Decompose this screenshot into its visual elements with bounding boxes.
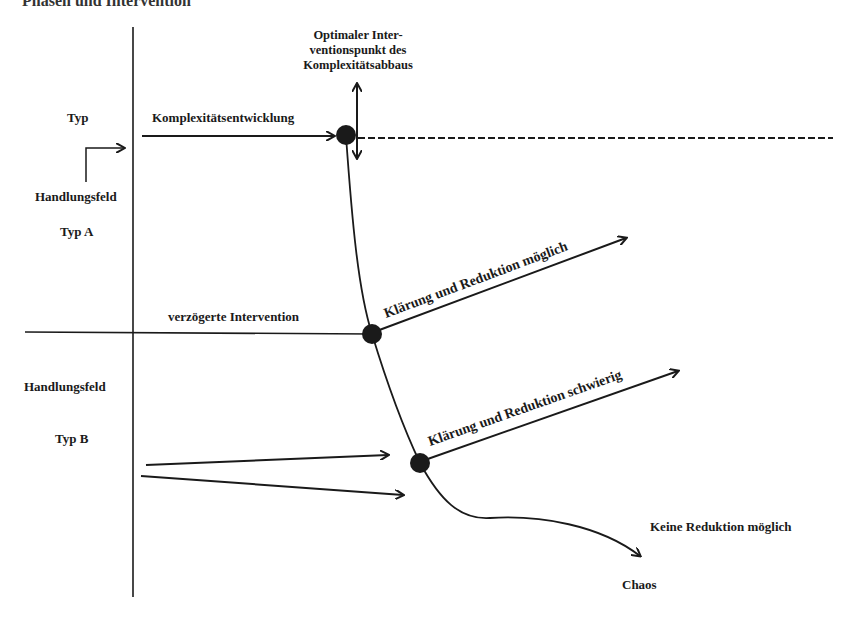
delayed-intervention-line: [25, 332, 372, 334]
chaos-label: Chaos: [622, 578, 657, 591]
optimal-point-line-2: ventionspunkt des: [278, 43, 438, 58]
optimal-point-annotation: Optimaler Inter- ventionspunkt des Kompl…: [278, 28, 438, 73]
reduction-possible-arrow: [374, 238, 626, 332]
delayed-intervention-label: verzögerte Intervention: [168, 310, 299, 323]
typ-b-arrow-upper: [146, 455, 388, 465]
handlungsfeld-a-label: Handlungsfeld: [35, 190, 117, 203]
optimal-point-line-3: Komplexitätsabbaus: [278, 58, 438, 73]
typ-b-arrow-lower: [141, 476, 403, 495]
handlungsfeld-b-label: Handlungsfeld: [24, 380, 106, 393]
complexity-curve: [346, 136, 640, 556]
reduction-difficult-label: Klärung und Reduktion schwierig: [426, 367, 624, 449]
optimal-point-line-1: Optimaler Inter-: [278, 28, 438, 43]
typ-a-label: Typ A: [60, 225, 93, 238]
difficult-intervention-dot: [410, 453, 430, 473]
optimal-intervention-dot: [336, 125, 356, 145]
reduction-difficult-arrow: [422, 371, 678, 461]
typ-label: Typ: [67, 111, 88, 124]
delayed-intervention-dot: [362, 324, 382, 344]
bent-arrow-icon: [86, 148, 124, 182]
no-reduction-label: Keine Reduktion möglich: [650, 520, 792, 533]
complexity-label: Komplexitätsentwicklung: [152, 111, 294, 124]
reduction-possible-label: Klärung und Reduktion möglich: [382, 238, 570, 320]
typ-b-label: Typ B: [55, 432, 88, 445]
